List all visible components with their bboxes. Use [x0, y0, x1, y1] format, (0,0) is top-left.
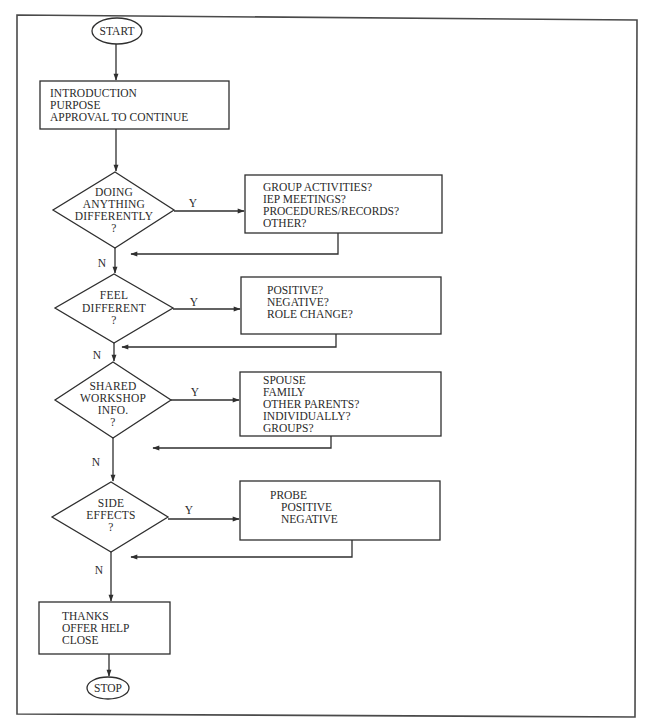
box-line: IEP MEETINGS? [263, 193, 346, 205]
box-line: OTHER PARENTS? [263, 398, 359, 410]
return-arrow [131, 233, 338, 254]
box-line: PROBE [270, 489, 307, 501]
return-arrow [131, 540, 352, 557]
decision-line: DIFFERENTLY [75, 210, 154, 222]
box-line: SPOUSE [263, 374, 306, 386]
box-line: GROUP ACTIVITIES? [263, 181, 372, 193]
stop-label: STOP [94, 682, 122, 694]
closing-line: CLOSE [62, 634, 98, 646]
return-arrow [122, 334, 336, 347]
return-arrow [153, 436, 331, 448]
decision-line: EFFECTS [86, 509, 135, 521]
closing-box: THANKS OFFER HELP CLOSE [39, 602, 170, 654]
yes-box-probe: PROBE POSITIVE NEGATIVE [240, 481, 440, 540]
box-line: POSITIVE? [267, 284, 323, 296]
decision-line: ? [108, 521, 113, 533]
yes-box-activities: GROUP ACTIVITIES? IEP MEETINGS? PROCEDUR… [245, 175, 442, 233]
box-line: NEGATIVE [281, 513, 338, 525]
box-line: ROLE CHANGE? [267, 308, 353, 320]
decision-line: WORKSHOP [80, 392, 146, 404]
yes-label: Y [189, 197, 198, 209]
no-label: N [92, 456, 101, 468]
decision-line: DIFFERENT [82, 302, 146, 314]
decision-line: FEEL [100, 289, 128, 301]
no-label: N [98, 257, 107, 269]
decision-doing-anything-differently: DOING ANYTHING DIFFERENTLY ? [53, 172, 174, 248]
decision-feel-different: FEEL DIFFERENT ? [55, 274, 173, 343]
yes-label: Y [190, 296, 199, 308]
no-label: N [95, 564, 104, 576]
decision-line: DOING [95, 186, 133, 198]
decision-line: ANYTHING [83, 198, 145, 210]
intro-line: APPROVAL TO CONTINUE [50, 111, 188, 123]
box-line: FAMILY [263, 386, 306, 398]
intro-box: INTRODUCTION PURPOSE APPROVAL TO CONTINU… [40, 81, 229, 129]
decision-line: SIDE [98, 497, 124, 509]
box-line: GROUPS? [263, 422, 313, 434]
intro-line: INTRODUCTION [50, 87, 138, 99]
decision-side-effects: SIDE EFFECTS ? [52, 482, 168, 552]
decision-shared-workshop-info: SHARED WORKSHOP INFO. ? [55, 362, 171, 438]
closing-line: THANKS [62, 610, 109, 622]
decision-line: INFO. [98, 404, 129, 416]
box-line: POSITIVE [281, 501, 332, 513]
start-terminal: START [92, 18, 142, 44]
decision-line: SHARED [89, 380, 136, 392]
box-line: INDIVIDUALLY? [263, 410, 351, 422]
closing-line: OFFER HELP [62, 622, 129, 634]
box-line: OTHER? [263, 217, 306, 229]
stop-terminal: STOP [87, 677, 129, 699]
no-label: N [93, 349, 102, 361]
box-line: NEGATIVE? [267, 296, 329, 308]
start-label: START [100, 25, 135, 37]
yes-box-sharing: SPOUSE FAMILY OTHER PARENTS? INDIVIDUALL… [240, 372, 441, 436]
intro-line: PURPOSE [50, 99, 101, 111]
decision-line: ? [111, 222, 116, 234]
yes-label: Y [185, 504, 194, 516]
decision-line: ? [111, 314, 116, 326]
yes-label: Y [191, 386, 200, 398]
box-line: PROCEDURES/RECORDS? [263, 205, 399, 217]
yes-box-feelings: POSITIVE? NEGATIVE? ROLE CHANGE? [241, 277, 441, 334]
flowchart: START INTRODUCTION PURPOSE APPROVAL TO C… [0, 0, 650, 728]
decision-line: ? [110, 416, 115, 428]
